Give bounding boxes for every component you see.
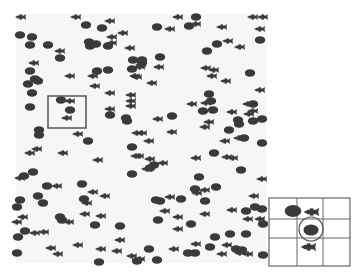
blob-shape <box>234 120 244 128</box>
blob-shape <box>97 24 107 32</box>
blob-shape <box>167 112 177 120</box>
blob-shape <box>255 36 265 44</box>
search-field <box>16 14 266 263</box>
zoom-inset <box>269 198 350 266</box>
blob-shape <box>241 207 251 215</box>
blob-shape <box>13 233 23 241</box>
visual-search-figure <box>0 0 364 279</box>
blob-shape <box>202 47 212 55</box>
blob-shape <box>122 117 132 125</box>
blob-shape <box>225 230 235 238</box>
blob-shape <box>200 197 210 205</box>
blob-shape <box>191 13 201 21</box>
blob-shape <box>241 230 251 238</box>
blob-shape <box>56 96 66 104</box>
blob-shape <box>224 126 234 134</box>
blob-shape <box>211 183 221 191</box>
blob-shape <box>33 77 43 85</box>
blob-shape <box>245 69 255 77</box>
blob-shape <box>23 80 33 88</box>
blob-shape <box>248 117 258 125</box>
blob-shape <box>208 106 218 114</box>
blob-shape <box>212 40 222 48</box>
blob-shape <box>55 54 65 62</box>
blob-shape <box>103 66 113 74</box>
blob-shape <box>33 192 43 200</box>
blob-shape <box>257 139 267 147</box>
blob-shape <box>105 111 115 119</box>
blob-shape <box>303 224 318 235</box>
blob-shape <box>34 131 44 139</box>
blob-shape <box>42 182 52 190</box>
blob-shape <box>25 67 35 75</box>
blob-shape <box>257 205 267 213</box>
blob-shape <box>83 137 93 145</box>
blob-shape <box>43 41 53 49</box>
blob-shape <box>285 205 302 217</box>
blob-shape <box>209 149 219 157</box>
blob-shape <box>144 245 154 253</box>
blob-shape <box>127 170 137 178</box>
blob-shape <box>128 56 138 64</box>
blob-shape <box>81 21 91 29</box>
blob-shape <box>153 216 163 224</box>
blob-shape <box>152 23 162 31</box>
blob-shape <box>176 195 186 203</box>
blob-shape <box>38 199 48 207</box>
blob-shape <box>127 143 137 151</box>
blob-shape <box>20 227 30 235</box>
blob-shape <box>15 196 25 204</box>
blob-shape <box>12 249 22 257</box>
blob-shape <box>15 31 25 39</box>
blob-shape <box>94 258 104 266</box>
blob-shape <box>198 107 208 115</box>
blob-shape <box>85 42 95 50</box>
blob-shape <box>25 103 35 111</box>
blob-shape <box>27 89 37 97</box>
blob-shape <box>77 180 87 188</box>
blob-shape <box>115 222 125 230</box>
blob-shape <box>12 203 22 211</box>
blob-shape <box>236 166 246 174</box>
blob-shape <box>152 256 162 264</box>
blob-shape <box>28 168 38 176</box>
blob-shape <box>65 106 75 114</box>
blob-shape <box>257 115 267 123</box>
blob-shape <box>190 249 200 257</box>
blob-shape <box>155 53 165 61</box>
blob-shape <box>194 173 204 181</box>
blob-shape <box>155 197 165 205</box>
blob-shape <box>205 243 215 251</box>
blob-shape <box>27 33 37 41</box>
blob-shape <box>90 221 100 229</box>
blob-shape <box>210 233 220 241</box>
blob-shape <box>204 90 214 98</box>
blob-shape <box>258 251 268 259</box>
blob-shape <box>25 41 35 49</box>
blob-shape <box>186 220 196 228</box>
